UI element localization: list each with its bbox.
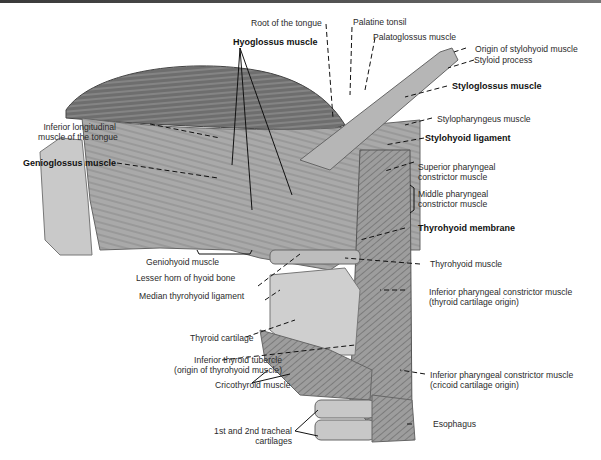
tongue-shape bbox=[66, 66, 345, 130]
label-root-of-tongue: Root of the tongue bbox=[251, 18, 322, 28]
label-line-1: 1st and 2nd tracheal bbox=[214, 426, 292, 436]
esophagus-shape bbox=[372, 395, 415, 442]
label-line-2: (thyroid cartilage origin) bbox=[429, 297, 519, 307]
label-inferior-longitudinal: Inferior longitudinal muscle of the tong… bbox=[38, 122, 116, 142]
label-hyoglossus: Hyoglossus muscle bbox=[233, 37, 318, 47]
label-line-2: (cricoid cartilage origin) bbox=[430, 380, 519, 390]
label-cricothyroid: Cricothyroid muscle bbox=[215, 380, 290, 390]
label-origin-stylohyoid: Origin of stylohyoid muscle bbox=[475, 44, 578, 54]
label-line-1: Inferior pharyngeal constrictor muscle bbox=[430, 370, 573, 380]
label-tracheal-cartilages: 1st and 2nd tracheal cartilages bbox=[200, 426, 292, 446]
label-palatoglossus: Palatoglossus muscle bbox=[373, 32, 456, 42]
label-inf-pharyngeal-cricoid: Inferior pharyngeal constrictor muscle (… bbox=[430, 370, 573, 390]
label-line-2: (origin of thyrohyoid muscle) bbox=[174, 365, 282, 375]
label-stylopharyngeus: Stylopharyngeus muscle bbox=[437, 114, 531, 124]
label-line-1: Middle pharyngeal bbox=[418, 189, 488, 199]
label-line-2: muscle of the tongue bbox=[38, 132, 118, 142]
label-line-1: Superior pharyngeal bbox=[418, 162, 495, 172]
label-thyrohyoid-muscle: Thyrohyoid muscle bbox=[430, 259, 502, 269]
label-stylohyoid-ligament: Stylohyoid ligament bbox=[425, 133, 511, 143]
label-thyroid-cartilage: Thyroid cartilage bbox=[190, 333, 254, 343]
label-styloid-process: Styloid process bbox=[474, 55, 532, 65]
label-superior-pharyngeal: Superior pharyngeal constrictor muscle bbox=[418, 162, 495, 182]
label-inferior-thyroid-tubercle: Inferior thyroid tubercle (origin of thy… bbox=[162, 355, 282, 375]
label-thyrohyoid-membrane: Thyrohyoid membrane bbox=[418, 223, 515, 233]
mandible-shape bbox=[40, 138, 92, 255]
label-line-1: Inferior longitudinal bbox=[43, 122, 116, 132]
label-line-1: Inferior pharyngeal constrictor muscle bbox=[429, 287, 572, 297]
label-middle-pharyngeal: Middle pharyngeal constrictor muscle bbox=[418, 189, 488, 209]
label-inf-pharyngeal-thyroid: Inferior pharyngeal constrictor muscle (… bbox=[429, 287, 572, 307]
label-line-2: cartilages bbox=[255, 436, 292, 446]
label-line-2: constrictor muscle bbox=[418, 172, 487, 182]
label-esophagus: Esophagus bbox=[433, 419, 476, 429]
label-line-2: constrictor muscle bbox=[418, 199, 487, 209]
label-styloglossus: Styloglossus muscle bbox=[452, 81, 542, 91]
hyoid-bone bbox=[270, 250, 360, 264]
label-line-1: Inferior thyroid tubercle bbox=[194, 355, 282, 365]
label-genioglossus: Genioglossus muscle bbox=[23, 158, 116, 168]
tracheal-ring-2 bbox=[315, 420, 375, 440]
label-geniohyoid: Geniohyoid muscle bbox=[146, 257, 219, 267]
label-lesser-horn: Lesser horn of hyoid bone bbox=[136, 273, 235, 283]
label-median-thyrohyoid: Median thyrohyoid ligament bbox=[139, 291, 244, 301]
tracheal-ring-1 bbox=[315, 400, 375, 418]
label-palatine-tonsil: Palatine tonsil bbox=[353, 17, 407, 27]
